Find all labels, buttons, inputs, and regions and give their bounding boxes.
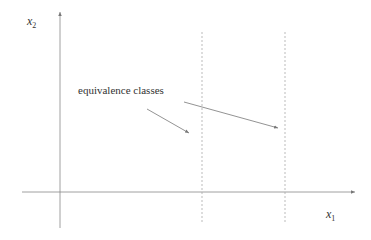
x-axis-label: x1 [325, 207, 335, 223]
diagram: x2 x1 equivalence classes [0, 0, 371, 240]
annotation-arrow-2 [184, 102, 278, 128]
annotation-label: equivalence classes [78, 84, 164, 96]
y-axis-label: x2 [26, 14, 36, 30]
annotation-arrow-1 [147, 109, 189, 133]
